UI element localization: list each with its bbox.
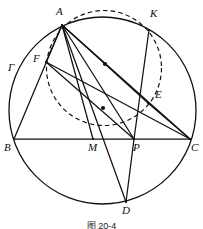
point-label-a: A bbox=[56, 6, 63, 17]
geometry-canvas bbox=[0, 0, 203, 229]
circle-label-gamma: Γ bbox=[8, 62, 14, 73]
vertex-dot-e bbox=[147, 102, 149, 104]
vertex-dot-c bbox=[189, 138, 191, 140]
point-label-b: B bbox=[4, 142, 11, 153]
point-label-f: F bbox=[33, 53, 40, 64]
point-label-e: E bbox=[155, 89, 162, 100]
point-label-d: D bbox=[122, 205, 130, 216]
vertex-dot-a bbox=[61, 24, 63, 26]
midpoint-dot-AE bbox=[103, 62, 107, 66]
segment-kp bbox=[134, 30, 149, 139]
segment-am bbox=[62, 25, 93, 139]
vertex-dot-k bbox=[148, 29, 150, 31]
midpoint-dot-FC bbox=[101, 106, 105, 110]
segment-ec bbox=[148, 103, 190, 139]
vertex-dot-d bbox=[125, 201, 127, 203]
segment-ap bbox=[62, 25, 134, 139]
point-label-p: P bbox=[133, 142, 140, 153]
point-label-m: M bbox=[88, 142, 97, 153]
vertex-dot-f bbox=[45, 61, 47, 63]
figure-caption: 图 20-4 bbox=[0, 219, 203, 229]
geometry-figure: Γ A K F E B M P C D 图 20-4 bbox=[0, 0, 203, 229]
point-label-k: K bbox=[150, 8, 157, 19]
segment-fc bbox=[46, 62, 190, 139]
vertex-dot-b bbox=[13, 138, 15, 140]
segment-ad bbox=[62, 25, 126, 202]
point-label-c: C bbox=[191, 142, 198, 153]
main-circle-gamma bbox=[9, 17, 196, 204]
vertex-dot-p bbox=[133, 138, 135, 140]
vertex-dot-m bbox=[92, 138, 94, 140]
